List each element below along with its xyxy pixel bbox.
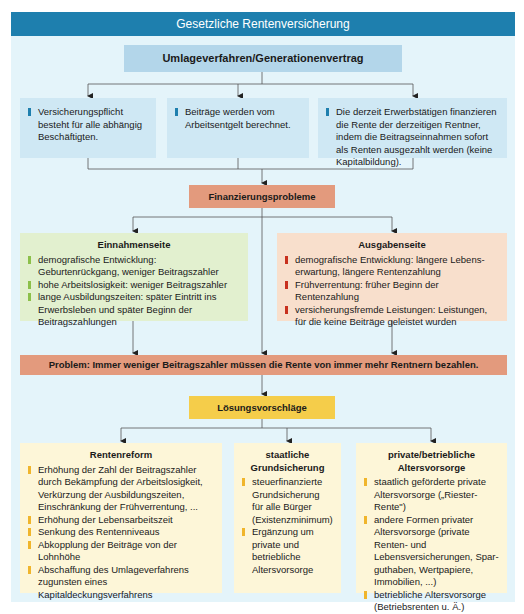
node-finanzierungsprobleme: Finanzierungsprobleme — [189, 185, 335, 208]
bullet-icon — [28, 516, 31, 524]
list-item: Beiträge werden vom Arbeitsentgelt berec… — [175, 106, 301, 131]
list-item: Erhöhung der Lebensarbeitszeit — [28, 514, 214, 527]
solution-title: Rentenreform — [28, 449, 214, 462]
bullet-icon — [28, 466, 31, 474]
list-item: Ergänzung um private und betrieb­liche A… — [242, 526, 333, 576]
income-side-title: Einnahmenseite — [28, 239, 240, 252]
node-loesungsvorschlaege: Lösungsvorschläge — [189, 396, 335, 419]
list-item: lange Ausbildungszeiten: später Eintritt… — [28, 291, 240, 329]
bullet-icon — [28, 293, 31, 301]
solution-title: staatliche Grundsicherung — [242, 449, 333, 474]
solution-grundsicherung: staatliche Grundsicherung steuerfinanzie… — [234, 443, 341, 593]
bullet-icon — [175, 108, 178, 116]
list-item: demografische Entwicklung: längere Leben… — [285, 254, 499, 279]
bullet-icon — [364, 478, 367, 486]
bullet-icon — [285, 256, 288, 264]
expense-side-title: Ausgabenseite — [285, 239, 499, 252]
list-item: versicherungsfremde Leistungen: Leistung… — [285, 304, 499, 329]
list-item: steuerfinanzierte Grundsicherung für all… — [242, 476, 333, 526]
list-item: Abkopplung der Beiträge von der Lohnhöhe — [28, 539, 214, 564]
solution-rentenreform: Rentenreform Erhöhung der Zahl der Beitr… — [20, 443, 222, 593]
list-item: Frühverrentung: früher Beginn der Renten… — [285, 279, 499, 304]
bullet-icon — [28, 541, 31, 549]
bullet-icon — [364, 591, 367, 599]
solution-private-altersvorsorge: private/betriebliche Altersvorsorge staa… — [356, 443, 507, 593]
bullet-icon — [28, 528, 31, 536]
list-item: Senkung des Rentenniveaus — [28, 526, 214, 539]
list-item: Die derzeit Erwerbstätigen finanzieren d… — [326, 106, 499, 169]
list-item: staatlich geförderte private Altersvorso… — [364, 476, 499, 514]
bullet-icon — [28, 281, 31, 289]
bullet-icon — [28, 108, 31, 116]
list-item: Versicherungspflicht besteht für alle ab… — [28, 106, 148, 144]
solution-title: private/betriebliche Altersvorsorge — [364, 449, 499, 474]
principle-box-3: Die derzeit Erwerbstätigen finanzieren d… — [318, 98, 507, 158]
expense-side-box: Ausgabenseite demografische Entwicklung:… — [277, 233, 507, 321]
income-side-box: Einnahmenseite demografische Entwicklung… — [20, 233, 248, 321]
principle-box-1: Versicherungspflicht besteht für alle ab… — [20, 98, 156, 158]
list-item: andere Formen privater Alters­vorsorge (… — [364, 514, 499, 589]
list-item: hohe Arbeitslosigkeit: weniger Beitragsz… — [28, 279, 240, 292]
diagram-title: Gesetzliche Rentenversicherung — [11, 12, 515, 36]
list-item: Abschaffung des Umlageverfahrens zugunst… — [28, 564, 214, 602]
list-item: Erhöhung der Zahl der Beitragszahler dur… — [28, 464, 214, 514]
bullet-icon — [28, 566, 31, 574]
problem-banner: Problem: Immer weniger Beitragszahler mü… — [20, 355, 507, 375]
list-item: demografische Entwicklung: Geburtenrückg… — [28, 254, 240, 279]
bullet-icon — [364, 516, 367, 524]
bullet-icon — [326, 108, 329, 116]
principle-box-2: Beiträge werden vom Arbeitsentgelt berec… — [167, 98, 309, 158]
bullet-icon — [242, 528, 245, 536]
bullet-icon — [28, 256, 31, 264]
list-item: betriebliche Altersvorsorge (Betriebsren… — [364, 589, 499, 614]
bullet-icon — [242, 478, 245, 486]
node-umlageverfahren: Umlageverfahren/Generationenvertrag — [124, 45, 402, 72]
bullet-icon — [285, 281, 288, 289]
bullet-icon — [285, 306, 288, 314]
